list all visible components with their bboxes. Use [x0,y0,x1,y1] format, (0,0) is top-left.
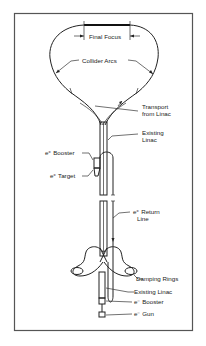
label-positron-target: e⁺ Target [50,172,76,179]
positron-booster-box [94,158,100,168]
label-damping-rings: Damping Rings [136,275,178,282]
damping-ring-right-box [125,268,137,275]
label-positron-return-line2: Line [137,215,149,222]
collider-arcs-leader-left [56,60,79,73]
electron-gun-leader [106,314,132,315]
positron-booster-leader [82,153,93,160]
label-positron-return-line1: e⁺ Return [133,208,160,215]
transport-leader [95,106,138,111]
electron-gun-box [99,312,105,317]
label-collider-arcs: Collider Arcs [82,57,117,64]
damping-ring-left [73,247,103,276]
return-line-arrow [112,238,115,242]
existing-linac-top-leader [108,134,138,140]
label-transport-line2: from Linac [142,110,171,117]
collider-arcs-leader-right [128,60,153,74]
damping-ring-right [104,247,134,276]
electron-booster-box [99,298,105,304]
label-electron-gun: e⁻ Gun [134,310,154,317]
label-transport-line1: Transport [142,103,169,110]
collider-arcs-arrowhead-right [149,70,153,74]
label-existing-linac-bottom: Existing Linac [134,288,172,295]
label-final-focus: Final Focus [89,33,121,40]
collider-diagram: Final Focus Collider Arcs Transport from… [0,0,206,346]
final-focus-arrowhead-left [80,35,84,38]
label-existing-linac-top-line2: Linac [142,136,157,143]
label-existing-linac-top-line1: Existing [142,129,164,136]
positron-target-shape [94,168,100,176]
existing-linac-bottom-leader [106,288,134,292]
existing-linac-lower [99,272,105,298]
label-positron-booster: e⁺ Booster [45,149,74,156]
final-focus-arrowhead-right [130,35,134,38]
return-line-leader [113,212,130,218]
label-electron-booster: e⁻ Booster [134,298,163,305]
positron-target-leader [82,170,93,176]
